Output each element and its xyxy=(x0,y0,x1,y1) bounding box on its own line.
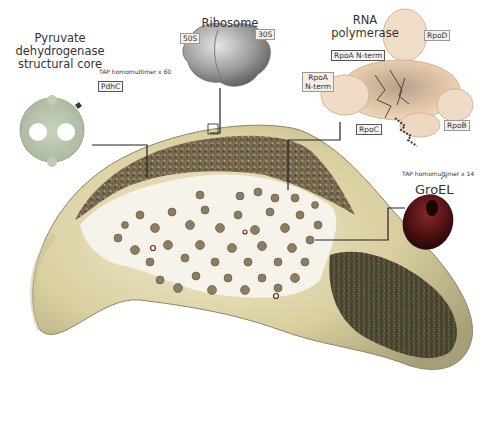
figure-canvas: Pyruvate dehydrogenase structural core T… xyxy=(0,0,503,421)
rnap-title: RNA polymerase xyxy=(330,14,400,40)
rnap-title-line-2: polymerase xyxy=(330,27,400,40)
rpod-label: RpoD xyxy=(424,30,450,41)
ribosome-50s-label: 50S xyxy=(180,33,200,44)
ribosome-connector-line xyxy=(210,88,220,133)
rpob-label: RpoB xyxy=(444,120,470,131)
rpoa-nterm-left-label: RpoA N-term xyxy=(302,72,334,92)
pdh-tap-note: TAP homomultimer x 60 xyxy=(99,68,171,75)
pdhc-label: PdhC xyxy=(98,81,123,92)
pdh-title: Pyruvate dehydrogenase structural core xyxy=(5,32,115,71)
pdh-core-structure xyxy=(20,95,84,167)
ribosome-30s-label: 30S xyxy=(255,29,275,40)
rpoa-nterm-top-label: RpoA N-term xyxy=(331,50,385,61)
rpoa-label-line-2: N-term xyxy=(305,82,331,91)
groel-title: GroEL xyxy=(415,182,454,197)
rpoc-label: RpoC xyxy=(356,124,382,135)
groel-tap-note: TAP homomultimer x 14 xyxy=(402,170,474,177)
rpoa-label-line-1: RpoA xyxy=(305,73,331,82)
